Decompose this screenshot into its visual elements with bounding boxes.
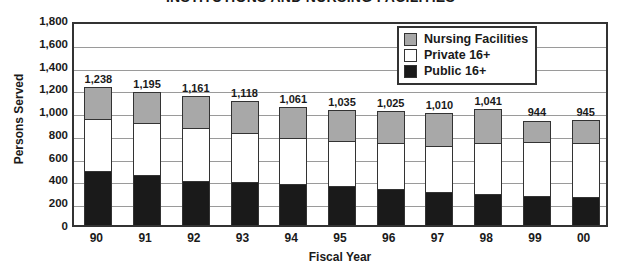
x-axis-title: Fiscal Year: [72, 250, 608, 264]
x-axis-tick-label: 90: [90, 231, 103, 245]
x-axis-tick-label: 96: [382, 231, 395, 245]
stacked-bar[interactable]: [377, 111, 405, 225]
bar-segment-public-16: [377, 189, 405, 226]
bar-slot: [318, 24, 367, 225]
bar-segment-public-16: [425, 192, 453, 226]
stacked-bar[interactable]: [328, 110, 356, 225]
bar-segment-private-16: [279, 138, 307, 185]
stacked-bar[interactable]: [572, 120, 600, 225]
y-axis-tick-label: 1,600: [2, 39, 68, 51]
y-axis-tick-label: 600: [2, 153, 68, 165]
x-axis-tick-label: 97: [431, 231, 444, 245]
legend-item[interactable]: Public 16+: [404, 63, 528, 79]
bar-segment-nursing-facilities: [84, 87, 112, 120]
bar-segment-nursing-facilities: [231, 101, 259, 134]
y-axis-tick-label: 1,800: [2, 16, 68, 28]
bar-segment-private-16: [84, 119, 112, 172]
legend-item-label: Public 16+: [424, 65, 486, 78]
legend-swatch-icon: [404, 65, 417, 78]
bar-value-label: 1,041: [474, 96, 502, 107]
legend-item-label: Private 16+: [424, 49, 490, 62]
legend-item[interactable]: Nursing Facilities: [404, 31, 528, 47]
bar-slot: [220, 24, 269, 225]
x-axis-tick-label: 99: [528, 231, 541, 245]
bar-slot: [74, 24, 123, 225]
chart-title: INSTITUTIONS AND NURSING FACILITIES: [0, 0, 621, 5]
bar-segment-private-16: [377, 143, 405, 190]
bar-segment-private-16: [328, 141, 356, 187]
stacked-bar-chart: INSTITUTIONS AND NURSING FACILITIES Pers…: [0, 0, 621, 275]
y-axis-tick-labels: 1,8001,6001,4001,2001,0008006004002000: [0, 22, 68, 227]
x-axis-tick-label: 98: [479, 231, 492, 245]
legend-item[interactable]: Private 16+: [404, 47, 528, 63]
bar-segment-nursing-facilities: [377, 111, 405, 144]
bar-value-label: 1,035: [328, 97, 356, 108]
bar-segment-public-16: [474, 194, 502, 226]
stacked-bar[interactable]: [84, 87, 112, 225]
stacked-bar[interactable]: [231, 101, 259, 225]
stacked-bar[interactable]: [279, 107, 307, 225]
bar-segment-public-16: [231, 182, 259, 226]
y-axis-tick-label: 800: [2, 130, 68, 142]
stacked-bar[interactable]: [474, 109, 502, 225]
bar-segment-public-16: [328, 186, 356, 226]
bar-value-label: 1,238: [85, 74, 113, 85]
bar-value-label: 945: [576, 107, 594, 118]
bar-segment-nursing-facilities: [572, 120, 600, 144]
bar-segment-nursing-facilities: [328, 110, 356, 142]
bar-slot: [269, 24, 318, 225]
bar-segment-private-16: [572, 143, 600, 198]
x-axis-tick-labels: 9091929394959697989900: [72, 231, 608, 247]
x-axis-tick-label: 00: [577, 231, 590, 245]
bar-segment-public-16: [84, 171, 112, 226]
x-axis-tick-label: 95: [333, 231, 346, 245]
y-axis-tick-label: 0: [2, 221, 68, 233]
bar-value-label: 944: [528, 107, 546, 118]
bar-segment-nursing-facilities: [133, 92, 161, 124]
bar-segment-private-16: [425, 146, 453, 193]
x-axis-tick-label: 94: [285, 231, 298, 245]
x-axis-tick-label: 91: [138, 231, 151, 245]
x-axis-tick-label: 93: [236, 231, 249, 245]
bar-segment-private-16: [231, 133, 259, 183]
stacked-bar[interactable]: [425, 113, 453, 225]
y-axis-tick-label: 1,200: [2, 84, 68, 96]
bar-segment-nursing-facilities: [523, 121, 551, 144]
y-axis-tick-label: 1,000: [2, 107, 68, 119]
bar-segment-public-16: [523, 196, 551, 226]
stacked-bar[interactable]: [182, 96, 210, 225]
bar-slot: [561, 24, 610, 225]
bar-segment-nursing-facilities: [182, 96, 210, 129]
bar-value-label: 1,161: [182, 83, 210, 94]
bar-segment-private-16: [133, 123, 161, 176]
x-axis-tick-label: 92: [187, 231, 200, 245]
y-axis-tick-label: 200: [2, 198, 68, 210]
bar-value-label: 1,118: [231, 88, 258, 99]
bar-value-label: 1,010: [426, 100, 454, 111]
bar-slot: [171, 24, 220, 225]
bar-segment-public-16: [572, 197, 600, 226]
bar-value-label: 1,061: [280, 94, 308, 105]
stacked-bar[interactable]: [133, 92, 161, 225]
bar-segment-public-16: [182, 181, 210, 226]
bar-value-label: 1,025: [377, 98, 405, 109]
bar-segment-private-16: [474, 143, 502, 195]
bar-segment-nursing-facilities: [279, 107, 307, 139]
chart-legend: Nursing FacilitiesPrivate 16+Public 16+: [397, 26, 537, 85]
legend-swatch-icon: [404, 49, 417, 62]
bar-segment-public-16: [133, 175, 161, 226]
bar-segment-nursing-facilities: [425, 113, 453, 147]
y-axis-tick-label: 400: [2, 175, 68, 187]
bar-segment-private-16: [182, 128, 210, 182]
bar-segment-private-16: [523, 142, 551, 197]
stacked-bar[interactable]: [523, 121, 551, 225]
legend-item-label: Nursing Facilities: [424, 33, 528, 46]
y-axis-tick-label: 1,400: [2, 62, 68, 74]
bar-value-label: 1,195: [133, 79, 161, 90]
bar-segment-nursing-facilities: [474, 109, 502, 143]
bar-segment-public-16: [279, 184, 307, 226]
legend-swatch-icon: [404, 33, 417, 46]
bar-slot: [123, 24, 172, 225]
